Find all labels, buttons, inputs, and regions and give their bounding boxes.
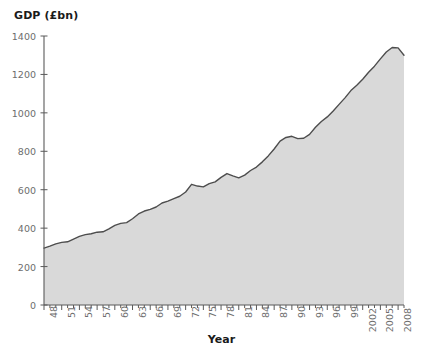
- x-tick-label: 99: [349, 306, 360, 318]
- x-tick-label: 96: [331, 306, 342, 318]
- y-tick-label: 0: [2, 300, 36, 311]
- x-tick-label: 78: [225, 306, 236, 318]
- caption-sliver: [28, 355, 398, 362]
- area-series: [44, 48, 404, 305]
- x-axis-title-text: Year: [208, 333, 236, 346]
- x-tick-label: 63: [137, 306, 148, 318]
- y-tick-label: 1400: [2, 31, 36, 42]
- y-tick-label: 200: [2, 261, 36, 272]
- x-tick-label: 48: [48, 306, 59, 318]
- y-tick-label: 600: [2, 184, 36, 195]
- x-tick-label: 2002: [367, 308, 378, 332]
- y-tick-label: 1200: [2, 69, 36, 80]
- x-tick-label: 93: [314, 306, 325, 318]
- y-tick-label: 400: [2, 223, 36, 234]
- x-tick-label: 72: [190, 306, 201, 318]
- x-tick-label: 2005: [384, 308, 395, 332]
- x-tick-label: 75: [207, 306, 218, 318]
- x-tick-label: 57: [101, 306, 112, 318]
- x-tick-label: 87: [278, 306, 289, 318]
- x-tick-label: 69: [172, 306, 183, 318]
- y-tick-label: 800: [2, 146, 36, 157]
- x-tick-label: 51: [66, 306, 77, 318]
- x-tick-label: 66: [154, 306, 165, 318]
- x-tick-label: 81: [243, 306, 254, 318]
- x-axis-title: Year: [0, 333, 425, 346]
- x-tick-label: 60: [119, 306, 130, 318]
- gdp-area-chart: GDP (£bn) 0200400600800100012001400 4851…: [0, 0, 425, 362]
- y-tick-label: 1000: [2, 107, 36, 118]
- x-tick-label: 2008: [402, 308, 413, 332]
- x-tick-label: 54: [83, 306, 94, 318]
- x-tick-label: 90: [296, 306, 307, 318]
- x-tick-label: 84: [260, 306, 271, 318]
